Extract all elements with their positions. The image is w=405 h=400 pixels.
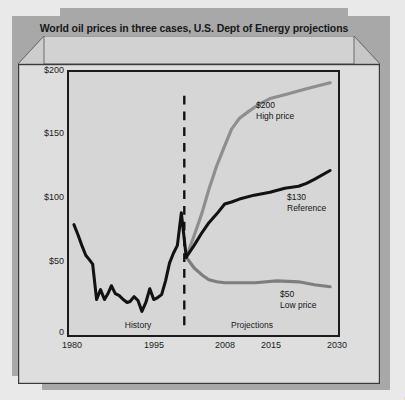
x-tick-1995: 1995 [144,340,164,350]
annotation-high-price-name: High price [256,111,294,122]
credit-container: Rendered from Foreign Policy, September/… [385,0,405,400]
series-low-price [186,257,330,287]
annotation-low-price-name: Low price [280,300,316,311]
annotation-low-price-value: $50 [280,289,316,300]
y-tick-0: 0 [59,327,64,337]
page-title: World oil prices in three cases, U.S. De… [0,22,388,34]
region-label-projections: Projections [231,320,273,330]
region-label-history: History [125,320,151,330]
x-tick-2008: 2008 [215,340,235,350]
y-tick-50: $50 [49,256,64,266]
y-tick-200: $200 [44,65,64,75]
x-tick-2030: 2030 [327,340,347,350]
x-axis-labels: 1980 1995 2008 2015 2030 [40,340,370,360]
series-history [74,213,186,312]
annotation-reference-name: Reference [287,203,326,214]
x-tick-2015: 2015 [261,340,281,350]
y-tick-100: $100 [44,192,64,202]
shadow-notch-top-right [348,8,390,16]
y-tick-150: $150 [44,128,64,138]
annotation-high-price-value: $200 [256,100,294,111]
x-tick-1980: 1980 [62,340,82,350]
page-background: World oil prices in three cases, U.S. De… [0,0,405,400]
annotation-low-price: $50 Low price [280,289,316,311]
shadow-notch-top-left [12,8,60,16]
annotation-reference-value: $130 [287,192,326,203]
annotation-high-price: $200 High price [256,100,294,122]
y-axis-labels: $200 $150 $100 $50 0 [18,36,64,346]
annotation-reference: $130 Reference [287,192,326,214]
